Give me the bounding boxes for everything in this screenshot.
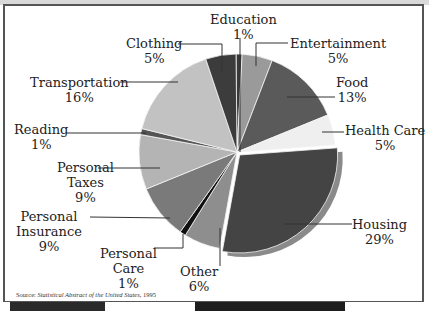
label-personal-taxes-name2: Taxes [57, 175, 114, 190]
label-entertainment-name: Entertainment [290, 36, 386, 51]
label-personal-care-name1: Personal [100, 246, 157, 261]
label-education-pct: 1% [210, 27, 277, 42]
label-personal-care: Personal Care 1% [100, 246, 157, 291]
label-personal-insurance-pct: 9% [16, 239, 82, 254]
label-education: Education 1% [210, 12, 277, 42]
label-personal-taxes-name1: Personal [57, 160, 114, 175]
label-personal-care-pct: 1% [100, 276, 157, 291]
label-reading: Reading 1% [14, 122, 68, 152]
label-personal-taxes: Personal Taxes 9% [57, 160, 114, 205]
label-reading-pct: 1% [14, 137, 68, 152]
label-health-care-name: Health Care [345, 123, 425, 138]
leader-line [154, 234, 183, 248]
label-transportation-name: Transportation [30, 75, 129, 90]
label-other: Other 6% [180, 264, 218, 294]
label-personal-insurance-name1: Personal [21, 209, 78, 224]
label-entertainment-pct: 5% [290, 51, 386, 66]
label-housing-name: Housing [352, 217, 407, 232]
slice-housing [222, 148, 337, 253]
label-clothing-name: Clothing [126, 36, 182, 51]
pie-slices [139, 54, 338, 253]
source-suffix: , 1995 [140, 291, 156, 298]
label-personal-taxes-pct: 9% [57, 190, 114, 205]
label-education-name: Education [210, 12, 277, 27]
label-entertainment: Entertainment 5% [290, 36, 386, 66]
label-transportation-pct: 16% [30, 90, 129, 105]
label-housing-pct: 29% [352, 232, 407, 247]
label-reading-name: Reading [14, 122, 68, 137]
label-personal-insurance-name2: Insurance [16, 224, 82, 239]
label-food-pct: 13% [336, 90, 368, 105]
label-food: Food 13% [336, 75, 368, 105]
label-personal-insurance: Personal Insurance 9% [16, 209, 82, 254]
label-health-care-pct: 5% [345, 138, 425, 153]
label-other-pct: 6% [180, 279, 218, 294]
source-prefix: Source: [16, 291, 37, 298]
label-food-name: Food [336, 75, 368, 90]
label-clothing: Clothing 5% [126, 36, 182, 66]
label-other-name: Other [180, 264, 218, 279]
leader-line [90, 217, 170, 218]
source-title: Statistical Abstract of the United State… [37, 291, 139, 298]
label-health-care: Health Care 5% [345, 123, 425, 153]
label-transportation: Transportation 16% [30, 75, 129, 105]
label-clothing-pct: 5% [126, 51, 182, 66]
source-note: Source: Statistical Abstract of the Unit… [16, 291, 156, 298]
label-personal-care-name2: Care [100, 261, 157, 276]
label-housing: Housing 29% [352, 217, 407, 247]
